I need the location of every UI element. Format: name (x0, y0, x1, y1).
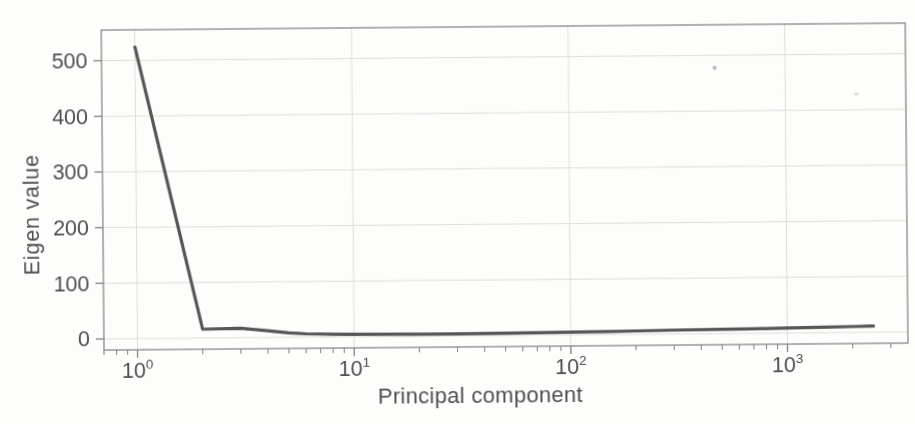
y-tick-label: 0 (78, 328, 90, 352)
scan-speck (854, 92, 859, 95)
vertical-gridline (568, 26, 571, 346)
y-tick-label: 500 (52, 49, 88, 73)
y-axis-title: Eigen value (19, 154, 45, 275)
scree-plot-figure: 0100200300400500100101102103 Eigen value… (0, 0, 915, 424)
scan-speck (713, 66, 717, 70)
y-tick-label: 200 (53, 216, 89, 240)
y-tick-label: 100 (53, 272, 89, 296)
vertical-gridline (785, 24, 788, 344)
vertical-gridline (351, 28, 354, 348)
x-tick-label: 103 (772, 351, 804, 377)
x-tick-label: 101 (339, 355, 371, 381)
y-tick-label: 300 (52, 161, 88, 185)
x-tick-label: 100 (122, 357, 154, 383)
y-tick-label: 400 (52, 105, 88, 129)
vertical-gridline (135, 30, 138, 350)
eigenvalue-line (135, 41, 874, 337)
x-axis-title: Principal component (378, 382, 583, 410)
plot-canvas: 0100200300400500100101102103 (0, 0, 915, 424)
x-tick-label: 102 (555, 353, 587, 379)
